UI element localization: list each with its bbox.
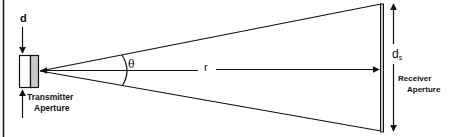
beam-upper-edge — [40, 4, 381, 71]
diagram-canvas — [0, 0, 453, 137]
receiver-size-label: ds — [391, 47, 403, 62]
transmitter-label-line2: Aperture — [34, 104, 69, 113]
receiver-size-subscript: s — [399, 54, 403, 61]
transmitter-size-label: d — [20, 13, 27, 24]
transmitter-label-line1: Transmitter — [27, 93, 73, 102]
receiver-label-line2: Aperture — [407, 86, 440, 94]
beam-angle-label: θ — [128, 59, 135, 70]
aperture-geometry-diagram: d θ r ds Transmitter Aperture Receiver A… — [0, 0, 453, 137]
receiver-label-line1: Receiver — [398, 75, 431, 83]
range-label: r — [200, 62, 212, 73]
transmitter-aperture — [20, 56, 39, 88]
receiver-aperture — [381, 4, 384, 132]
beam-lower-edge — [40, 71, 381, 131]
receiver-size-main: d — [392, 47, 399, 61]
